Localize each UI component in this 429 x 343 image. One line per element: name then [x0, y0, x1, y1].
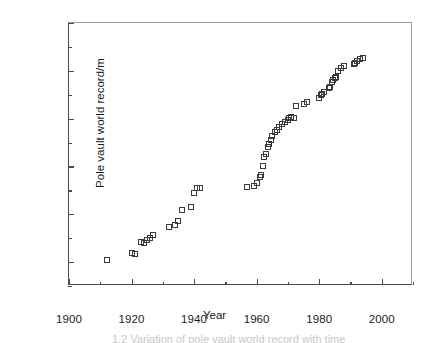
- data-point: [293, 103, 299, 109]
- y-tick-major: [68, 166, 74, 167]
- data-point: [304, 99, 310, 105]
- figure-caption: 1.2 Variation of pole vault world record…: [112, 333, 345, 343]
- data-point: [260, 163, 266, 169]
- x-tick-major: [69, 279, 70, 285]
- y-tick-major: [68, 262, 74, 263]
- data-point: [341, 63, 347, 69]
- x-tick-major: [194, 279, 195, 285]
- y-tick-minor: [68, 190, 72, 191]
- x-tick-minor: [288, 282, 289, 286]
- plot-area: 190019201940196019802000 4.04.55.05.56.0…: [68, 22, 412, 285]
- y-axis-title: Pole vault world record/m: [94, 13, 106, 233]
- data-point: [291, 115, 297, 121]
- data-point: [104, 257, 110, 263]
- y-tick-minor: [68, 143, 72, 144]
- x-tick-minor: [350, 282, 351, 286]
- x-tick-major: [257, 279, 258, 285]
- data-point: [175, 218, 181, 224]
- y-tick-minor: [68, 238, 72, 239]
- data-point: [197, 185, 203, 191]
- y-tick-major: [68, 71, 74, 72]
- x-tick-major: [132, 279, 133, 285]
- data-point: [360, 55, 366, 61]
- data-point: [188, 204, 194, 210]
- data-point: [150, 232, 156, 238]
- data-point: [254, 180, 260, 186]
- x-tick-major: [319, 279, 320, 285]
- data-point: [179, 207, 185, 213]
- y-tick-minor: [68, 286, 72, 287]
- x-tick-minor: [163, 282, 164, 286]
- y-tick-major: [68, 214, 74, 215]
- data-point: [132, 251, 138, 257]
- x-tick-minor: [100, 282, 101, 286]
- y-tick-major: [68, 119, 74, 120]
- y-tick-minor: [68, 95, 72, 96]
- data-points-layer: [69, 23, 411, 284]
- pole-vault-scatter-figure: 190019201940196019802000 4.04.55.05.56.0…: [0, 0, 429, 343]
- data-point: [258, 172, 264, 178]
- data-point: [333, 74, 339, 80]
- y-tick-major: [68, 23, 74, 24]
- data-point: [244, 184, 250, 190]
- x-tick-minor: [225, 282, 226, 286]
- data-point: [263, 151, 269, 157]
- y-tick-minor: [68, 47, 72, 48]
- data-point: [166, 224, 172, 230]
- x-tick-minor: [413, 282, 414, 286]
- x-tick-major: [382, 279, 383, 285]
- x-axis-title: Year: [0, 309, 429, 321]
